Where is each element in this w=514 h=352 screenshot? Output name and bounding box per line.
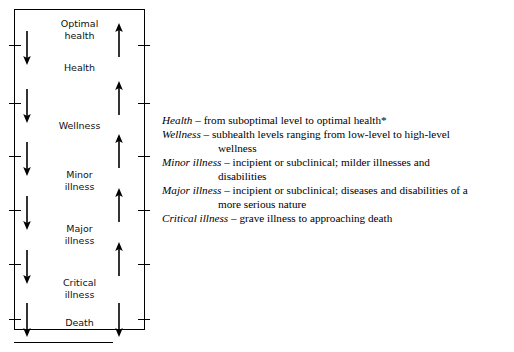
definition-text: from suboptimal level to optimal health* [204, 114, 387, 126]
tick-mark-right [138, 103, 150, 104]
definition-dash: – [192, 114, 203, 126]
arrow-up-icon [112, 81, 126, 115]
tick-mark-right [138, 45, 150, 46]
stage-label-health: Health [34, 62, 126, 74]
arrow-up-icon [112, 134, 126, 168]
arrow-down-icon [20, 31, 34, 65]
definition-text: incipient or subclinical; milder illness… [233, 156, 430, 168]
definition-term: Minor illness [162, 156, 221, 168]
arrow-up-icon [112, 23, 126, 57]
definition-list: Health – from suboptimal level to optima… [162, 113, 510, 225]
tick-mark-right [138, 319, 150, 320]
definition-entry-major-illness: Major illness – incipient or subclinical… [162, 183, 510, 211]
definition-entry-wellness: Wellness – subhealth levels ranging from… [162, 127, 510, 155]
arrow-up-icon [112, 242, 126, 276]
definition-entry-health: Health – from suboptimal level to optima… [162, 113, 510, 127]
arrow-up-icon [112, 188, 126, 222]
definition-text: incipient or subclinical; diseases and d… [233, 184, 468, 196]
definition-term: Major illness [162, 184, 221, 196]
definition-term: Health [162, 114, 192, 126]
tick-mark-right [138, 264, 150, 265]
definition-dash: – [201, 128, 212, 140]
tick-mark-right [138, 156, 150, 157]
definition-dash: – [228, 212, 239, 224]
definition-entry-minor-illness: Minor illness – incipient or subclinical… [162, 155, 510, 183]
definition-text: grave illness to approaching death [239, 212, 392, 224]
stage-label-critical-illness: Critical illness [34, 277, 126, 300]
definition-continuation: disabilities [162, 169, 510, 183]
arrow-down-icon [20, 142, 34, 176]
definition-text: subhealth levels ranging from low-level … [212, 128, 450, 140]
tick-mark-right [138, 210, 150, 211]
arrow-down-icon [20, 89, 34, 123]
stage-label-death: Death [34, 317, 126, 329]
arrow-down-icon [20, 196, 34, 230]
stage-label-wellness: Wellness [34, 120, 126, 132]
definition-term: Wellness [162, 128, 201, 140]
definition-continuation: more serious nature [162, 197, 510, 211]
definition-dash: – [221, 156, 232, 168]
definition-continuation: wellness [162, 141, 510, 155]
continuum-diagram: Optimal health Health Wellness [14, 9, 145, 330]
definition-dash: – [221, 184, 232, 196]
footnote-rule [14, 342, 113, 343]
arrow-down-icon [20, 303, 34, 337]
definition-term: Critical illness [162, 212, 228, 224]
definition-entry-critical-illness: Critical illness – grave illness to appr… [162, 211, 510, 225]
arrow-down-icon [20, 250, 34, 284]
